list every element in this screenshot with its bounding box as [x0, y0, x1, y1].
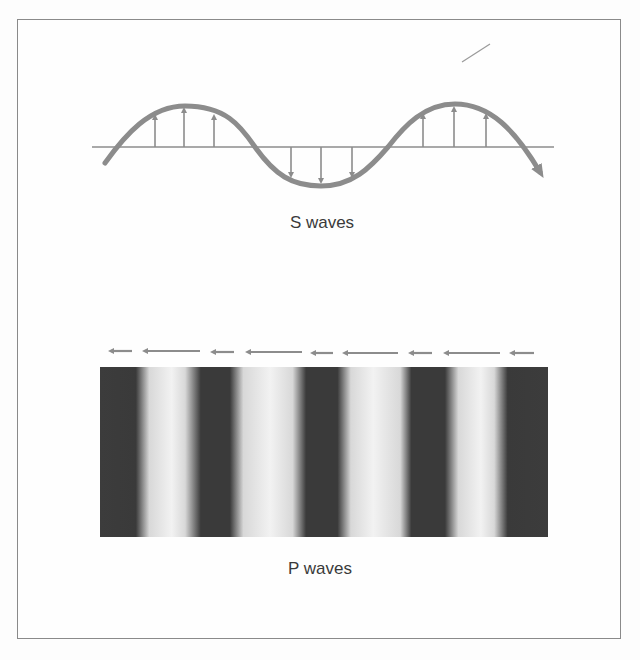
p-wave-compression-band [100, 367, 548, 537]
p-waves-caption: P waves [220, 559, 420, 579]
s-waves-caption: S waves [222, 213, 422, 233]
displacement-up-arrows [155, 109, 486, 147]
displacement-down-arrows [291, 147, 352, 181]
s-wave-curve [105, 104, 540, 186]
stray-mark [462, 44, 490, 62]
propagation-arrows [111, 351, 534, 353]
